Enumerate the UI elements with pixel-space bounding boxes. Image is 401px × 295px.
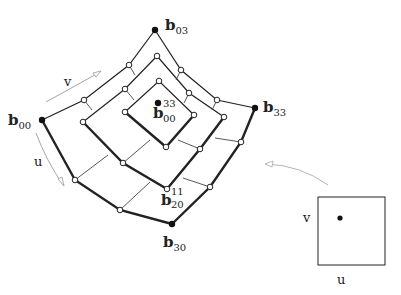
point-b00 — [39, 117, 45, 123]
svg-text:b: b — [161, 191, 172, 209]
svg-text:11: 11 — [171, 186, 184, 197]
mapping-arrow — [265, 161, 328, 185]
connector-lines — [75, 65, 241, 210]
svg-text:v: v — [63, 74, 72, 89]
svg-text:00: 00 — [163, 113, 176, 124]
svg-text:u: u — [34, 154, 42, 169]
arrowhead-icon — [93, 71, 101, 77]
svg-text:v: v — [302, 210, 311, 225]
svg-text:20: 20 — [171, 199, 184, 210]
label-b30: b30 — [163, 233, 186, 253]
parameter-domain: v u — [302, 197, 385, 287]
domain-point — [337, 215, 342, 220]
label-b03: b03 — [165, 16, 188, 36]
svg-text:b: b — [153, 104, 164, 122]
label-b33: b33 — [263, 98, 286, 118]
point-b03 — [152, 27, 158, 33]
arrowhead-icon — [265, 161, 273, 167]
label-b00: b00 — [8, 111, 31, 131]
bezier-patch-diagram: b03 b00 b33 b30 b 33 00 b 11 20 v u v u — [0, 0, 401, 295]
corner-points — [39, 27, 258, 227]
point-b30 — [169, 221, 175, 227]
svg-text:u: u — [337, 272, 345, 287]
svg-text:33: 33 — [163, 98, 176, 109]
v-arrow: v — [46, 71, 101, 102]
middle-ring — [83, 56, 224, 189]
outer-ring — [42, 30, 255, 224]
open-points — [72, 53, 244, 213]
arrowhead-icon — [58, 177, 64, 186]
u-arrow: u — [34, 133, 64, 186]
point-b33 — [252, 105, 258, 111]
